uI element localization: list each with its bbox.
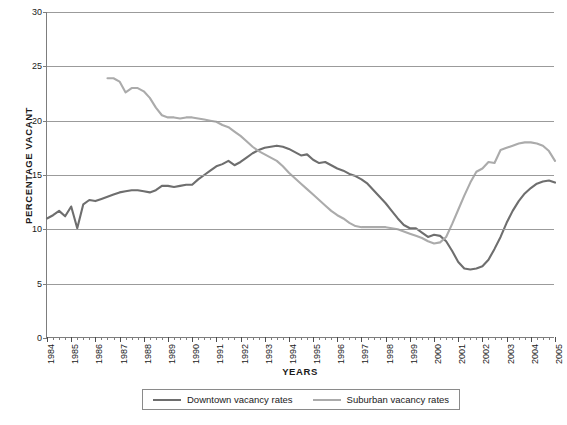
chart-legend: Downtown vacancy rates Suburban vacancy … — [142, 389, 460, 410]
x-tick-label: 2000 — [433, 344, 443, 364]
x-minor-tick — [476, 337, 477, 340]
y-tick-label: 15 — [32, 170, 42, 180]
x-minor-tick — [331, 337, 332, 340]
x-minor-tick — [59, 337, 60, 340]
x-minor-tick — [162, 337, 163, 340]
x-minor-tick — [301, 337, 302, 340]
x-minor-tick — [138, 337, 139, 340]
x-tick-mark — [458, 337, 459, 342]
x-tick-label: 1995 — [312, 344, 322, 364]
x-tick-mark — [531, 337, 532, 342]
x-minor-tick — [186, 337, 187, 340]
x-minor-tick — [180, 337, 181, 340]
x-minor-tick — [204, 337, 205, 340]
x-tick-mark — [361, 337, 362, 342]
x-minor-tick — [77, 337, 78, 340]
y-tick-label: 25 — [32, 61, 42, 71]
series-line-downtown — [47, 146, 555, 270]
x-minor-tick — [519, 337, 520, 340]
legend-item-suburban: Suburban vacancy rates — [313, 394, 449, 405]
x-tick-label: 1985 — [70, 344, 80, 364]
x-tick-label: 1993 — [264, 344, 274, 364]
x-tick-mark — [168, 337, 169, 342]
x-tick-label: 1990 — [191, 344, 201, 364]
legend-swatch-downtown — [153, 399, 181, 401]
x-minor-tick — [114, 337, 115, 340]
legend-label-suburban: Suburban vacancy rates — [347, 394, 449, 405]
x-tick-mark — [144, 337, 145, 342]
x-minor-tick — [126, 337, 127, 340]
x-tick-mark — [120, 337, 121, 342]
x-tick-mark — [265, 337, 266, 342]
series-line-suburban — [107, 78, 555, 243]
vacancy-rates-line-chart: PERCENTAGE VACANT 0510152025301984198519… — [0, 0, 567, 425]
x-minor-tick — [107, 337, 108, 340]
x-minor-tick — [440, 337, 441, 340]
x-minor-tick — [343, 337, 344, 340]
y-tick-label: 10 — [32, 224, 42, 234]
x-minor-tick — [132, 337, 133, 340]
x-tick-mark — [289, 337, 290, 342]
x-minor-tick — [283, 337, 284, 340]
x-minor-tick — [271, 337, 272, 340]
x-minor-tick — [234, 337, 235, 340]
x-minor-tick — [253, 337, 254, 340]
x-minor-tick — [464, 337, 465, 340]
x-minor-tick — [398, 337, 399, 340]
x-minor-tick — [513, 337, 514, 340]
legend-swatch-suburban — [313, 399, 341, 401]
x-tick-label: 2003 — [506, 344, 516, 364]
x-tick-mark — [71, 337, 72, 342]
x-tick-mark — [555, 337, 556, 342]
gridline — [47, 175, 554, 176]
x-minor-tick — [65, 337, 66, 340]
x-tick-mark — [482, 337, 483, 342]
x-tick-label: 1998 — [385, 344, 395, 364]
x-minor-tick — [368, 337, 369, 340]
y-tick-mark — [43, 66, 47, 67]
x-minor-tick — [355, 337, 356, 340]
x-tick-label: 1996 — [336, 344, 346, 364]
x-minor-tick — [495, 337, 496, 340]
x-minor-tick — [307, 337, 308, 340]
legend-label-downtown: Downtown vacancy rates — [187, 394, 293, 405]
x-axis-title: YEARS — [46, 366, 554, 377]
x-tick-label: 1987 — [119, 344, 129, 364]
x-minor-tick — [488, 337, 489, 340]
x-minor-tick — [89, 337, 90, 340]
y-tick-mark — [43, 229, 47, 230]
y-tick-mark — [43, 284, 47, 285]
x-minor-tick — [277, 337, 278, 340]
x-tick-label: 1999 — [409, 344, 419, 364]
x-tick-mark — [507, 337, 508, 342]
x-tick-mark — [410, 337, 411, 342]
x-minor-tick — [247, 337, 248, 340]
x-tick-label: 2002 — [481, 344, 491, 364]
x-minor-tick — [156, 337, 157, 340]
gridline — [47, 284, 554, 285]
x-minor-tick — [470, 337, 471, 340]
x-tick-mark — [434, 337, 435, 342]
x-minor-tick — [210, 337, 211, 340]
y-tick-label: 5 — [37, 279, 42, 289]
x-minor-tick — [416, 337, 417, 340]
x-minor-tick — [150, 337, 151, 340]
x-tick-mark — [216, 337, 217, 342]
x-minor-tick — [319, 337, 320, 340]
x-minor-tick — [525, 337, 526, 340]
x-minor-tick — [452, 337, 453, 340]
x-minor-tick — [259, 337, 260, 340]
x-tick-mark — [241, 337, 242, 342]
x-minor-tick — [537, 337, 538, 340]
y-tick-mark — [43, 12, 47, 13]
y-tick-label: 20 — [32, 116, 42, 126]
x-tick-label: 1991 — [215, 344, 225, 364]
x-minor-tick — [53, 337, 54, 340]
x-minor-tick — [380, 337, 381, 340]
gridline — [47, 66, 554, 67]
x-minor-tick — [295, 337, 296, 340]
x-tick-label: 1988 — [143, 344, 153, 364]
legend-item-downtown: Downtown vacancy rates — [153, 394, 293, 405]
x-minor-tick — [446, 337, 447, 340]
x-tick-mark — [337, 337, 338, 342]
